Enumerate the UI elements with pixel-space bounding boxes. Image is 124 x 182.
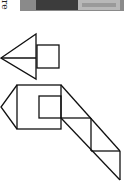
house-chute-shape: [1, 85, 120, 180]
arrow-square: [37, 45, 59, 68]
left-point-triangle: [1, 85, 17, 129]
arrow-triangle: [1, 34, 36, 79]
geometric-diagram: [0, 0, 124, 182]
inner-square: [39, 96, 61, 118]
arrow-shape: [1, 34, 59, 79]
